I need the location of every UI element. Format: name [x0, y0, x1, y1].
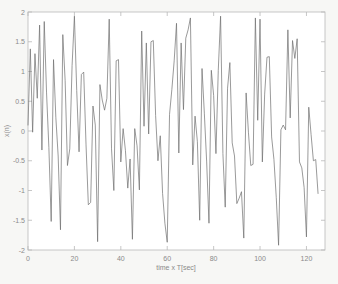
- x-axis-label: time x T[sec]: [156, 264, 196, 272]
- y-tick-label: 0: [21, 128, 25, 135]
- x-tick-label: 100: [254, 255, 266, 262]
- y-tick-label: -1: [19, 187, 25, 194]
- y-tick-label: -1.5: [13, 217, 25, 224]
- x-tick-label: 80: [210, 255, 218, 262]
- x-tick-label: 20: [71, 255, 79, 262]
- y-tick-label: -0.5: [13, 157, 25, 164]
- chart-figure: 020406080100120 -2-1.5-1-0.500.511.52 ti…: [0, 0, 338, 284]
- plot-area-background: [28, 12, 325, 250]
- y-tick-label: 1: [21, 68, 25, 75]
- y-tick-label: 2: [21, 9, 25, 16]
- y-tick-label: -2: [19, 247, 25, 254]
- x-tick-label: 120: [301, 255, 313, 262]
- line-chart: 020406080100120 -2-1.5-1-0.500.511.52 ti…: [0, 0, 338, 284]
- y-tick-label: 0.5: [15, 98, 25, 105]
- x-tick-label: 60: [163, 255, 171, 262]
- y-tick-label: 1.5: [15, 38, 25, 45]
- x-tick-label: 40: [117, 255, 125, 262]
- x-tick-label: 0: [26, 255, 30, 262]
- y-axis-label: x(n): [3, 125, 11, 137]
